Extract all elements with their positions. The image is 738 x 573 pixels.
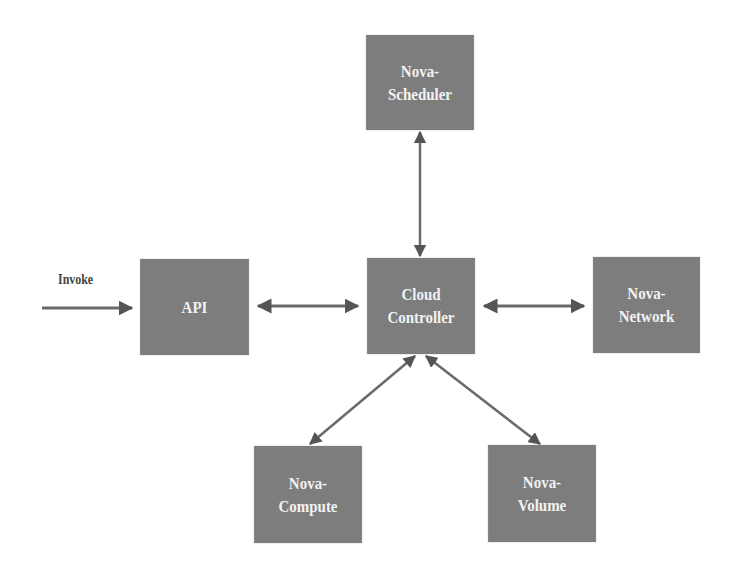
node-nova-compute: Nova- Compute — [254, 446, 361, 543]
node-api: API — [140, 259, 248, 355]
controller-volume-arrow — [426, 356, 540, 444]
node-nova-volume: Nova- Volume — [488, 445, 595, 542]
invoke-label: Invoke — [58, 272, 93, 288]
node-cloud-controller: Cloud Controller — [367, 258, 474, 354]
controller-compute-arrow — [310, 356, 415, 444]
node-nova-network: Nova- Network — [593, 257, 699, 353]
node-nova-scheduler: Nova- Scheduler — [366, 35, 473, 130]
